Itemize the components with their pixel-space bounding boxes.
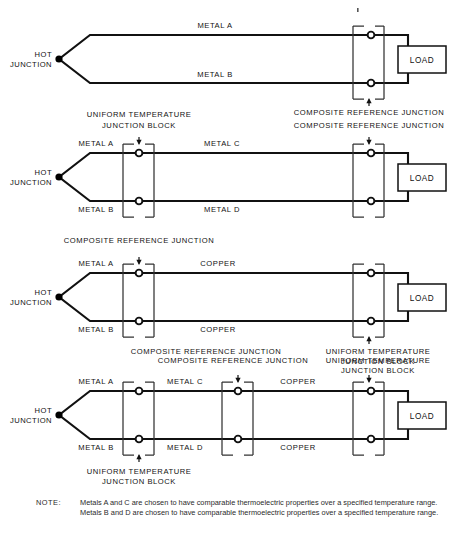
diagram-3-wire-load-bottom bbox=[371, 311, 408, 321]
diagram-2-hot-junction-label-line1: HOT bbox=[35, 168, 52, 177]
diagram-2-wire-label-metal-c: METAL C bbox=[204, 139, 240, 148]
diagram-3-hot-junction-label-line1: HOT bbox=[35, 288, 52, 297]
diagram-4: LOAD HOT JUNCTION METAL A METAL B METAL … bbox=[10, 356, 446, 486]
diagram-4-wire-top bbox=[59, 391, 371, 415]
diagram-3-wire-label-copper-top: COPPER bbox=[200, 259, 235, 268]
diagram-4-terminal-top-left bbox=[136, 388, 143, 395]
diagram-3-terminal-top-left bbox=[136, 270, 143, 277]
diagram-1-terminal-bottom bbox=[368, 80, 375, 87]
diagram-2-terminal-top-left bbox=[136, 150, 143, 157]
diagram-3-composite-block-caption: COMPOSITE REFERENCE JUNCTION bbox=[64, 236, 214, 245]
diagram-2-hot-junction-dot bbox=[55, 173, 62, 180]
diagram-3-wire-label-metal-a: METAL A bbox=[78, 259, 113, 268]
diagram-3-wire-load-top bbox=[371, 273, 408, 284]
figure-root: LOAD HOT JUNCTION METAL A METAL B COMPOS… bbox=[0, 0, 463, 547]
diagram-4-terminal-top-middle bbox=[235, 388, 242, 395]
diagram-2-wire-top bbox=[59, 153, 371, 177]
diagram-2-hot-junction-label-line2: JUNCTION bbox=[10, 178, 52, 187]
diagram-4-wire-label-metal-b: METAL B bbox=[78, 443, 114, 452]
diagram-2-terminal-top-right bbox=[368, 150, 375, 157]
diagram-4-uniform-left-arrow-head bbox=[136, 454, 141, 459]
diagram-2-load-label: LOAD bbox=[410, 174, 434, 183]
diagram-3-wire-label-metal-b: METAL B bbox=[78, 325, 114, 334]
diagram-4-wire-load-bottom bbox=[371, 429, 408, 439]
diagram-4-load-label: LOAD bbox=[410, 412, 434, 421]
diagram-3-hot-junction-label-line2: JUNCTION bbox=[10, 298, 52, 307]
diagram-3-uniform-block-arrow-head bbox=[366, 336, 371, 341]
diagram-4-wire-bottom bbox=[59, 415, 371, 439]
diagram-1-block-arrow-head bbox=[366, 98, 371, 103]
diagram-4-uniform-right-caption-line1: UNIFORM TEMPERATURE bbox=[326, 356, 431, 365]
diagram-4-wire-label-metal-a: METAL A bbox=[78, 377, 113, 386]
diagram-3-hot-junction-dot bbox=[55, 293, 62, 300]
diagram-2-wire-load-bottom bbox=[371, 191, 408, 201]
diagram-3-uniform-block-caption-line1: UNIFORM TEMPERATURE bbox=[326, 347, 431, 356]
diagram-4-terminal-bottom-right bbox=[368, 436, 375, 443]
diagram-3-load-label: LOAD bbox=[410, 294, 434, 303]
diagram-3-composite-reference-junction-caption-lower: COMPOSITE REFERENCE JUNCTION bbox=[131, 347, 281, 356]
diagram-4-uniform-right-arrow-head bbox=[366, 378, 371, 383]
diagram-2-wire-label-metal-d: METAL D bbox=[204, 205, 240, 214]
diagram-3-terminal-top-right bbox=[368, 270, 375, 277]
diagram-2-wire-label-metal-b: METAL B bbox=[78, 205, 114, 214]
diagram-2-terminal-bottom-right bbox=[368, 198, 375, 205]
diagram-4-terminal-top-right bbox=[368, 388, 375, 395]
diagram-1-composite-reference-junction-caption: COMPOSITE REFERENCE JUNCTION bbox=[294, 108, 444, 117]
diagram-2: LOAD HOT JUNCTION METAL A METAL B METAL … bbox=[10, 110, 446, 217]
diagram-canvas: LOAD HOT JUNCTION METAL A METAL B COMPOS… bbox=[0, 0, 463, 547]
diagram-4-wire-label-metal-d: METAL D bbox=[167, 443, 203, 452]
diagram-1-hot-junction-label-line2: JUNCTION bbox=[10, 60, 52, 69]
diagram-3-composite-block-arrow-head bbox=[136, 260, 141, 265]
diagram-2-composite-block-caption: COMPOSITE REFERENCE JUNCTION bbox=[294, 121, 444, 130]
diagram-2-uniform-block-caption-line2: JUNCTION BLOCK bbox=[102, 121, 176, 130]
diagram-2-wire-label-metal-a: METAL A bbox=[78, 139, 113, 148]
diagram-1-hot-junction-label-line1: HOT bbox=[35, 50, 52, 59]
note-tag: NOTE: bbox=[36, 498, 80, 507]
diagram-1-wire-load-bottom bbox=[371, 73, 408, 83]
diagram-4-hot-junction-label-line2: JUNCTION bbox=[10, 416, 52, 425]
note-block: NOTE: Metals A and C are chosen to have … bbox=[36, 498, 456, 519]
diagram-1-wire-label-metal-b: METAL B bbox=[197, 70, 233, 79]
diagram-4-wire-label-copper-bottom: COPPER bbox=[280, 443, 315, 452]
diagram-1-hot-junction-dot bbox=[55, 55, 62, 62]
diagram-1-terminal-top bbox=[368, 32, 375, 39]
diagram-1-wire-load-top bbox=[371, 35, 408, 46]
diagram-4-hot-junction-label-line1: HOT bbox=[35, 406, 52, 415]
note-body: Metals A and C are chosen to have compar… bbox=[80, 498, 456, 519]
diagram-4-wire-label-metal-c: METAL C bbox=[167, 377, 203, 386]
diagram-2-wire-bottom bbox=[59, 177, 371, 201]
diagram-2-composite-block-arrow-head bbox=[366, 140, 371, 145]
diagram-3: LOAD HOT JUNCTION METAL A METAL B COPPER… bbox=[10, 236, 446, 366]
diagram-3-wire-bottom bbox=[59, 297, 371, 321]
diagram-2-wire-load-top bbox=[371, 153, 408, 164]
diagram-4-wire-load-top bbox=[371, 391, 408, 402]
diagram-4-uniform-left-caption-line1: UNIFORM TEMPERATURE bbox=[87, 467, 192, 476]
diagram-1-load-label: LOAD bbox=[410, 56, 434, 65]
diagram-3-wire-top bbox=[59, 273, 371, 297]
diagram-4-wire-label-copper-top: COPPER bbox=[280, 377, 315, 386]
scan-artifact-speck bbox=[357, 8, 359, 12]
diagram-4-uniform-right-caption-line2: JUNCTION BLOCK bbox=[341, 366, 415, 375]
diagram-2-terminal-bottom-left bbox=[136, 198, 143, 205]
diagram-1: LOAD HOT JUNCTION METAL A METAL B COMPOS… bbox=[10, 21, 446, 117]
diagram-1-wire-label-metal-a: METAL A bbox=[197, 21, 232, 30]
note-row: NOTE: Metals A and C are chosen to have … bbox=[36, 498, 456, 519]
diagram-4-composite-arrow-head bbox=[235, 378, 240, 383]
diagram-1-wire-top bbox=[59, 35, 371, 59]
diagram-4-hot-junction-dot bbox=[55, 411, 62, 418]
note-line-1: Metals A and C are chosen to have compar… bbox=[80, 498, 456, 508]
diagram-4-terminal-bottom-middle bbox=[235, 436, 242, 443]
diagram-4-composite-caption: COMPOSITE REFERENCE JUNCTION bbox=[158, 356, 308, 365]
diagram-4-uniform-left-caption-line2: JUNCTION BLOCK bbox=[102, 477, 176, 486]
diagram-2-uniform-block-caption-line1: UNIFORM TEMPERATURE bbox=[87, 110, 192, 119]
diagram-4-terminal-bottom-left bbox=[136, 436, 143, 443]
diagram-2-uniform-block-arrow-head bbox=[136, 140, 141, 145]
diagram-3-terminal-bottom-left bbox=[136, 318, 143, 325]
diagram-3-wire-label-copper-bottom: COPPER bbox=[200, 325, 235, 334]
diagram-3-terminal-bottom-right bbox=[368, 318, 375, 325]
note-line-2: Metals B and D are chosen to have compar… bbox=[80, 508, 456, 518]
